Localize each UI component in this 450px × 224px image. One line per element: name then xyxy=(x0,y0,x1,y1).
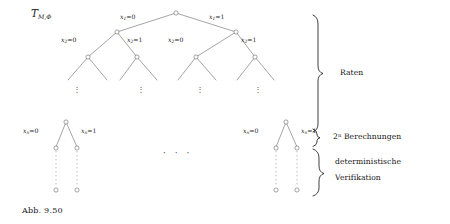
vertical-ellipsis-4: ⋮ xyxy=(254,88,257,91)
figure-caption: Abb. 9.50 xyxy=(22,207,63,215)
brace-label-berechnungen: 2n Berechnungen xyxy=(333,133,401,141)
brace-raten xyxy=(313,15,323,132)
node-br-left xyxy=(274,146,278,150)
edge-label-xn-0-right: xn=0 xyxy=(243,128,258,135)
edge-l3d-left xyxy=(237,57,255,80)
vertical-ellipsis-3: ⋮ xyxy=(196,88,199,91)
horizontal-ellipsis: · · · xyxy=(163,148,192,158)
node-bl-left xyxy=(54,146,58,150)
node-l3-a xyxy=(86,55,90,59)
node-l3-c xyxy=(194,55,198,59)
edge-br-right xyxy=(286,122,297,147)
edge-bl-left xyxy=(56,122,66,147)
node-l3-d xyxy=(253,55,257,59)
node-br-leaf-right xyxy=(295,188,299,192)
node-bl-right xyxy=(75,146,79,150)
brace-label-verifikation-line1: deterministische xyxy=(335,158,401,166)
node-bl-leaf-right xyxy=(75,188,79,192)
node-bl-apex xyxy=(64,120,68,124)
edge-l3d-right xyxy=(255,57,274,80)
edge-label-x1-0: x1=0 xyxy=(120,14,135,21)
edge-label-x2-1-a: x2=1 xyxy=(127,37,142,44)
edge-label-xn-1-right: xn=1 xyxy=(301,128,316,135)
brace-verifikation xyxy=(313,149,324,196)
edge-l3b-right xyxy=(137,57,157,80)
vertical-ellipsis-1: ⋮ xyxy=(73,88,76,91)
edge-label-xn-1-left: xn=1 xyxy=(81,128,96,135)
node-br-leaf-left xyxy=(274,188,278,192)
node-l3-b xyxy=(135,55,139,59)
vertical-ellipsis-2: ⋮ xyxy=(137,88,140,91)
node-l2-b xyxy=(234,30,238,34)
edge-root-right xyxy=(176,13,236,32)
edge-label-x2-0-a: x2=0 xyxy=(61,37,76,44)
figure-computation-tree: TM,Φ x1=0 x1=1 x2=0 x2=1 x2=0 x2=1 xn=0 … xyxy=(0,0,450,224)
edge-l3c-right xyxy=(196,57,216,80)
tree-graphics xyxy=(0,0,450,224)
edge-l3a-right xyxy=(88,57,107,80)
tree-name-label: TM,Φ xyxy=(31,8,51,20)
edge-l2a-left xyxy=(88,32,117,57)
brace-label-raten: Raten xyxy=(340,69,363,77)
edge-label-xn-0-left: xn=0 xyxy=(23,128,38,135)
edge-bl-right xyxy=(66,122,77,147)
node-root xyxy=(174,11,178,15)
node-bl-leaf-left xyxy=(54,188,58,192)
edge-label-x2-1-b: x2=1 xyxy=(241,37,256,44)
edge-br-left xyxy=(276,122,286,147)
node-br-right xyxy=(295,146,299,150)
edge-label-x1-1: x1=1 xyxy=(209,14,224,21)
node-l2-a xyxy=(115,30,119,34)
edge-l3b-left xyxy=(120,57,137,80)
edge-l3a-left xyxy=(68,57,88,80)
edge-l3c-left xyxy=(178,57,196,80)
brace-label-verifikation-line2: Verifikation xyxy=(335,174,381,182)
edge-label-x2-0-b: x2=0 xyxy=(168,37,183,44)
node-br-apex xyxy=(284,120,288,124)
edge-l2b-left xyxy=(196,32,236,57)
